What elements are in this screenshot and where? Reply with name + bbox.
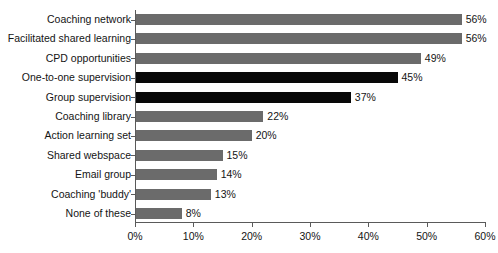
bar-chart: Coaching networkFacilitated shared learn… [0, 0, 498, 253]
bar [135, 130, 252, 141]
x-axis-tick-label: 50% [416, 230, 437, 242]
x-axis-tick [135, 223, 136, 227]
plot-area: 56%56%49%45%37%22%20%15%14%13%8% [135, 10, 485, 222]
bar-row: 45% [135, 72, 485, 83]
bar-row: 15% [135, 150, 485, 161]
bar [135, 92, 351, 103]
bar-value-label: 37% [355, 91, 376, 103]
category-label: Action learning set [0, 130, 131, 141]
bar-row: 37% [135, 92, 485, 103]
bar-value-label: 56% [466, 32, 487, 44]
bar [135, 208, 182, 219]
bar-row: 56% [135, 33, 485, 44]
x-axis-tick [193, 223, 194, 227]
y-axis-line [135, 10, 136, 223]
category-label: None of these [0, 208, 131, 219]
bar [135, 14, 462, 25]
x-axis-tick-label: 60% [474, 230, 495, 242]
bar-value-label: 49% [425, 52, 446, 64]
bar-row: 49% [135, 53, 485, 64]
bar [135, 150, 223, 161]
bar [135, 111, 263, 122]
bar-row: 22% [135, 111, 485, 122]
x-axis-tick-label: 40% [358, 230, 379, 242]
category-label: Email group [0, 169, 131, 180]
bar-row: 56% [135, 14, 485, 25]
bar-value-label: 14% [221, 168, 242, 180]
bar-value-label: 22% [267, 110, 288, 122]
x-axis-tick-label: 10% [183, 230, 204, 242]
bar-row: 14% [135, 169, 485, 180]
bar [135, 169, 217, 180]
y-axis-tick [131, 39, 135, 40]
x-axis-tick-label: 30% [299, 230, 320, 242]
category-label: Facilitated shared learning [0, 33, 131, 44]
y-axis-tick [131, 117, 135, 118]
bar-value-label: 20% [256, 129, 277, 141]
y-axis-tick [131, 78, 135, 79]
x-axis-tick [310, 223, 311, 227]
category-label: Coaching network [0, 14, 131, 25]
y-axis-tick [131, 136, 135, 137]
category-label: One-to-one supervision [0, 72, 131, 83]
bar-value-label: 15% [227, 149, 248, 161]
category-label: Shared webspace [0, 150, 131, 161]
y-axis-tick [131, 155, 135, 156]
bar [135, 189, 211, 200]
bar [135, 33, 462, 44]
bar-value-label: 45% [402, 71, 423, 83]
x-axis-tick [427, 223, 428, 227]
y-axis-tick [131, 214, 135, 215]
category-label: Coaching library [0, 111, 131, 122]
y-axis-tick [131, 58, 135, 59]
bar-row: 13% [135, 189, 485, 200]
bar-value-label: 56% [466, 13, 487, 25]
category-label: CPD opportunities [0, 53, 131, 64]
category-axis-labels: Coaching networkFacilitated shared learn… [0, 10, 131, 222]
y-axis-tick [131, 97, 135, 98]
bar-value-label: 8% [186, 207, 201, 219]
bar [135, 53, 421, 64]
x-axis-tick [252, 223, 253, 227]
bar-row: 20% [135, 130, 485, 141]
y-axis-tick [131, 20, 135, 21]
y-axis-tick [131, 175, 135, 176]
x-axis-tick [368, 223, 369, 227]
category-label: Coaching 'buddy' [0, 189, 131, 200]
bar-row: 8% [135, 208, 485, 219]
bar [135, 72, 398, 83]
y-axis-tick [131, 194, 135, 195]
x-axis-tick [485, 223, 486, 227]
category-label: Group supervision [0, 92, 131, 103]
bar-value-label: 13% [215, 188, 236, 200]
x-axis-tick-label: 0% [127, 230, 142, 242]
x-axis-tick-label: 20% [241, 230, 262, 242]
